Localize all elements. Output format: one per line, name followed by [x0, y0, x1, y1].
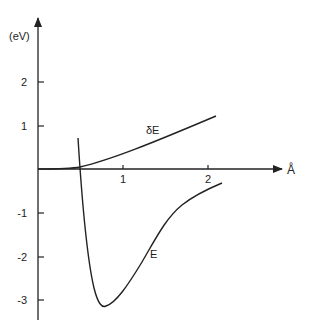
x-tick-label-2: 2: [205, 173, 211, 185]
delta-e-curve: [38, 116, 216, 169]
y-unit-label: (eV): [9, 30, 30, 42]
x-tick-label-1: 1: [120, 173, 126, 185]
delta-e-label: δE: [146, 124, 159, 136]
x-unit-label: Å: [287, 162, 295, 177]
e-curve: [78, 138, 222, 306]
e-label: E: [150, 248, 157, 260]
y-tick-label-neg1: -1: [17, 207, 27, 219]
y-ticks: [38, 82, 44, 300]
y-tick-label-neg2: -2: [17, 251, 27, 263]
chart: (eV) 2 1 -1 -2 -3 1 2 Å δE E: [0, 0, 310, 334]
y-tick-label-2: 2: [21, 76, 27, 88]
y-tick-label-neg3: -3: [17, 294, 27, 306]
y-tick-label-1: 1: [21, 120, 27, 132]
